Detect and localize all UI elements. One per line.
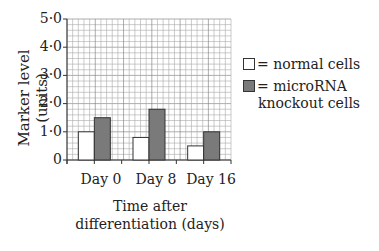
y-tick-label: 5·0 — [32, 10, 62, 26]
y-tick-label: 3·0 — [32, 66, 62, 82]
y-tick-label: 4·0 — [32, 38, 62, 54]
bar-normal — [78, 132, 94, 160]
x-axis-title: Time after differentiation (days) — [70, 197, 230, 233]
grey-square-icon — [243, 80, 255, 92]
white-square-icon — [243, 58, 255, 70]
bar-normal — [133, 137, 149, 160]
y-tick-label: 0 — [32, 151, 62, 167]
legend-label: = normal cells — [257, 56, 360, 72]
bar-knockout — [94, 118, 110, 160]
x-category-label: Day 0 — [71, 171, 131, 187]
legend-label-continued: knockout cells — [243, 95, 360, 112]
x-axis-title-line1: Time after — [70, 197, 230, 215]
x-category-label: Day 16 — [181, 171, 241, 187]
bar-normal — [188, 146, 204, 160]
bar-knockout — [149, 109, 165, 160]
legend-entry-normal: = normal cells — [243, 56, 360, 73]
legend-entry-knockout: = microRNA knockout cells — [243, 78, 360, 112]
legend: = normal cells = microRNA knockout cells — [243, 56, 360, 112]
legend-label: = microRNA — [257, 78, 347, 94]
x-axis-title-line2: differentiation (days) — [70, 215, 230, 233]
x-category-label: Day 8 — [126, 171, 186, 187]
bar-knockout — [204, 132, 220, 160]
y-tick-label: 1·0 — [32, 123, 62, 139]
y-tick-label: 2·0 — [32, 94, 62, 110]
